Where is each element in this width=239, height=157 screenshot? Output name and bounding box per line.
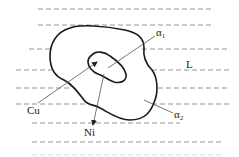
cu-arrow bbox=[38, 62, 97, 103]
alpha1-label: α1 bbox=[156, 26, 166, 40]
solidification-diagram: α1 α2 L Cu Ni bbox=[0, 0, 239, 157]
ni-arrow bbox=[93, 74, 104, 125]
alpha1-boundary bbox=[88, 52, 126, 82]
liquid-label: L bbox=[186, 58, 193, 70]
alpha2-label: α2 bbox=[174, 108, 184, 122]
cu-label: Cu bbox=[27, 104, 40, 116]
alpha2-boundary bbox=[50, 26, 157, 120]
alpha2-leader bbox=[144, 100, 173, 113]
alpha1-leader bbox=[108, 36, 155, 68]
ni-label: Ni bbox=[84, 126, 95, 138]
